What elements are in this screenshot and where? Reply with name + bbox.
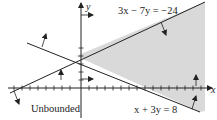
feasible-region-diagram: x y 3x − 7y = −24 x + 3y = 8 Unbounded [0, 0, 217, 120]
shaded-feasible-region [76, 2, 205, 112]
x-axis-label: x [210, 84, 216, 95]
arrow-line-a-left-direction [14, 91, 19, 104]
region-label: Unbounded [31, 103, 81, 114]
equation-label-line-a: 3x − 7y = −24 [118, 5, 179, 16]
equation-label-line-b: x + 3y = 8 [134, 104, 177, 115]
y-axis-label: y [85, 1, 91, 12]
arrow-line-b-direction [42, 34, 46, 47]
